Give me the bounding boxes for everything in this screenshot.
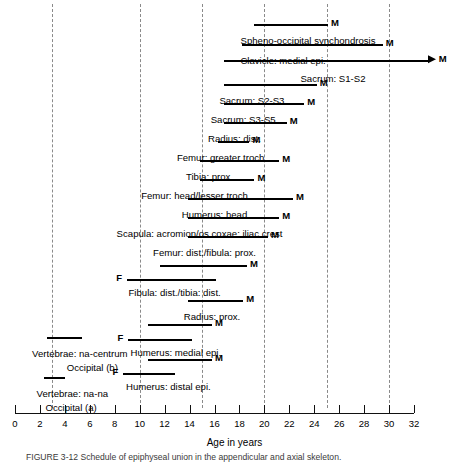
- bone-row-label: Fibula: dist./tibia: dist.: [128, 287, 220, 298]
- range-bar: [200, 179, 255, 181]
- range-bar: [148, 324, 212, 326]
- male-marker-label: M: [296, 192, 304, 201]
- range-bar: [224, 103, 304, 105]
- x-axis-tick-label: 22: [277, 418, 301, 429]
- x-axis-tick: [65, 405, 66, 413]
- female-marker-label: F: [116, 273, 122, 282]
- range-bar: [188, 217, 279, 219]
- male-marker-label: M: [282, 154, 290, 163]
- range-bar: [127, 279, 216, 281]
- bone-row-label: Vertebrae: na-centrum: [32, 348, 127, 359]
- male-marker-label: M: [386, 38, 394, 47]
- x-axis-title: Age in years: [0, 437, 469, 448]
- female-marker-label: F: [117, 333, 123, 342]
- bone-row-label: Radius: prox.: [184, 311, 241, 322]
- range-bar: [224, 122, 286, 124]
- x-axis-tick-label: 8: [103, 418, 127, 429]
- range-bar: [47, 337, 82, 339]
- bone-row-label: Humerus: distal epi.: [126, 381, 211, 392]
- x-axis-tick-label: 20: [252, 418, 276, 429]
- range-bar: [200, 160, 280, 162]
- x-axis-tick-label: 18: [227, 418, 251, 429]
- x-axis-tick: [165, 405, 166, 413]
- x-axis-tick-label: 16: [203, 418, 227, 429]
- bone-row-label: Humerus: medial epi.: [131, 347, 222, 358]
- x-axis-tick: [389, 405, 390, 413]
- x-axis-tick: [140, 405, 141, 413]
- x-axis-tick: [339, 405, 340, 413]
- x-axis-tick-label: 26: [327, 418, 351, 429]
- x-axis-tick-label: 0: [3, 418, 27, 429]
- x-axis-tick: [190, 405, 191, 413]
- male-marker-label: M: [331, 18, 339, 27]
- range-bar: [254, 24, 328, 26]
- range-bar: [188, 198, 293, 200]
- gridline-30y: [389, 4, 390, 408]
- male-marker-label: M: [290, 116, 298, 125]
- x-axis-tick-label: 14: [178, 418, 202, 429]
- bone-row-label: Femur: dist./fibula: prox.: [153, 247, 256, 258]
- range-bar: [224, 60, 427, 62]
- x-axis-tick: [40, 405, 41, 413]
- range-bar: [224, 84, 316, 86]
- x-axis-tick: [314, 405, 315, 413]
- range-bar: [188, 300, 243, 302]
- gridline-25y: [327, 4, 328, 408]
- male-marker-label: M: [257, 173, 265, 182]
- range-bar: [160, 265, 247, 267]
- range-bar: [128, 339, 192, 341]
- x-axis-tick: [364, 405, 365, 413]
- male-marker-label: M: [246, 294, 254, 303]
- male-marker-label: M: [250, 259, 258, 268]
- x-axis-tick: [414, 405, 415, 413]
- male-marker-label: M: [215, 318, 223, 327]
- x-axis-tick: [90, 405, 91, 413]
- x-axis-tick-label: 4: [53, 418, 77, 429]
- x-axis-tick-label: 12: [153, 418, 177, 429]
- x-axis-tick: [115, 405, 116, 413]
- figure-caption: FIGURE 3-12 Schedule of epiphyseal union…: [26, 452, 456, 462]
- x-axis-tick-label: 30: [377, 418, 401, 429]
- x-axis-tick-label: 28: [352, 418, 376, 429]
- range-bar: [148, 359, 212, 361]
- x-axis-tick-label: 2: [28, 418, 52, 429]
- x-axis-tick-label: 24: [302, 418, 326, 429]
- male-marker-label: M: [439, 54, 447, 63]
- arrow-head-icon: [428, 55, 436, 63]
- range-bar: [123, 373, 174, 375]
- bone-row-label: Occipital (b): [67, 362, 118, 373]
- x-axis-tick: [289, 405, 290, 413]
- male-marker-label: M: [282, 211, 290, 220]
- male-marker-label: M: [215, 353, 223, 362]
- x-axis-line: [15, 413, 414, 414]
- range-bar: [242, 44, 383, 46]
- male-marker-label: M: [320, 78, 328, 87]
- range-bar: [188, 236, 268, 238]
- male-marker-label: M: [271, 230, 279, 239]
- x-axis-tick-label: 32: [402, 418, 426, 429]
- male-marker-label: M: [252, 135, 260, 144]
- x-axis-tick: [264, 405, 265, 413]
- x-axis-tick: [239, 405, 240, 413]
- range-bar: [218, 141, 249, 143]
- range-bar: [44, 377, 65, 379]
- bone-row-label: Sacrum: S1-S2: [300, 73, 365, 84]
- x-axis-tick: [215, 405, 216, 413]
- x-axis-tick-label: 6: [78, 418, 102, 429]
- x-axis-tick: [15, 405, 16, 413]
- x-axis-tick-label: 10: [128, 418, 152, 429]
- male-marker-label: M: [307, 97, 315, 106]
- bone-row-label: Vertebrae: na-na: [37, 388, 108, 399]
